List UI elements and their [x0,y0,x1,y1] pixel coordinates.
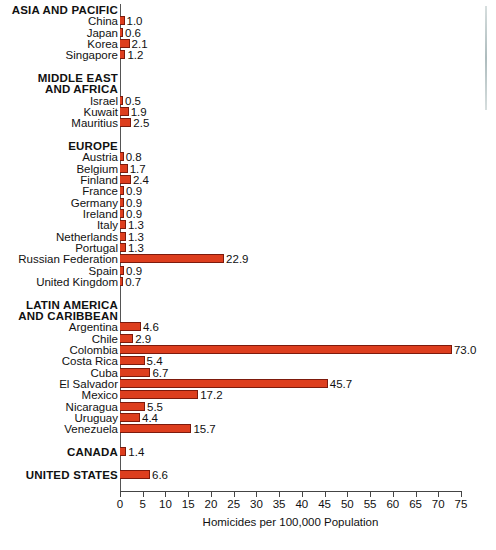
bar-value-label: 15.7 [191,422,215,436]
axis-tick [416,491,417,497]
axis-tick [234,491,235,497]
bar [120,424,191,433]
bar [120,175,131,184]
bar [120,402,145,411]
axis-tick-label: 15 [182,498,195,510]
bar [120,356,145,365]
axis-tick [461,491,462,497]
bar-value-label: 0.7 [123,275,141,289]
value-axis-line [120,491,461,492]
homicide-rate-bar-chart: Homicides per 100,000 Population ASIA AN… [0,0,496,550]
bar [120,379,328,388]
axis-tick [393,491,394,497]
axis-tick-label: 30 [250,498,263,510]
axis-tick-label: 0 [117,498,123,510]
axis-tick-label: 25 [227,498,240,510]
axis-tick-label: 10 [159,498,172,510]
axis-tick [370,491,371,497]
bar [120,470,150,479]
bar-row: UNITED STATES6.6 [0,468,496,482]
bar [120,368,150,377]
country-label: Mauritius [71,116,118,130]
bar [120,164,128,173]
axis-tick [165,491,166,497]
axis-tick-label: 65 [409,498,422,510]
bar [120,334,133,343]
bar [120,345,452,354]
axis-tick [279,491,280,497]
bar-value-label: 1.4 [126,445,144,459]
axis-tick-label: 50 [341,498,354,510]
axis-tick-label: 40 [295,498,308,510]
axis-tick [302,491,303,497]
plot-area: Homicides per 100,000 Population ASIA AN… [0,0,496,550]
axis-tick [211,491,212,497]
axis-tick-label: 45 [318,498,331,510]
bar [120,254,224,263]
axis-tick [120,491,121,497]
axis-tick [438,491,439,497]
bar [120,322,141,331]
bar-row: Singapore1.2 [0,48,496,62]
bar [120,39,130,48]
country-label: Singapore [66,48,118,62]
bar [120,390,198,399]
country-label: CANADA [67,445,118,459]
bar-row: Mauritius2.5 [0,116,496,130]
axis-tick-label: 35 [273,498,286,510]
bar [120,118,131,127]
axis-tick-label: 70 [432,498,445,510]
x-axis-title: Homicides per 100,000 Population [120,516,461,528]
axis-tick-label: 75 [455,498,468,510]
axis-tick-label: 5 [140,498,146,510]
axis-tick-label: 20 [205,498,218,510]
bar-value-label: 1.2 [125,48,143,62]
bar-value-label: 6.6 [150,468,168,482]
bar [120,413,140,422]
bar-row: Venezuela15.7 [0,422,496,436]
bar-value-label: 2.5 [131,116,149,130]
axis-tick-label: 55 [364,498,377,510]
axis-tick-label: 60 [386,498,399,510]
axis-tick [143,491,144,497]
country-label: United Kingdom [36,275,118,289]
bar [120,107,129,116]
axis-tick [188,491,189,497]
axis-tick [256,491,257,497]
axis-tick [347,491,348,497]
bar-row: United Kingdom0.7 [0,275,496,289]
country-label: Venezuela [64,422,118,436]
country-label: UNITED STATES [26,468,118,482]
axis-tick [325,491,326,497]
bar-row: CANADA1.4 [0,445,496,459]
